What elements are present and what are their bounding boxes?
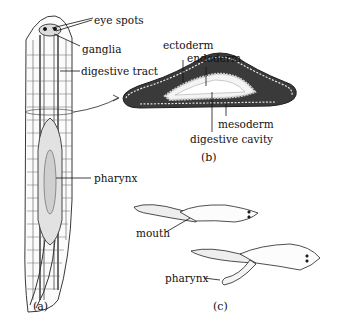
caption-c: (c) xyxy=(213,301,228,312)
label-pharynx-a: pharynx xyxy=(94,173,137,184)
label-eye-spots: eye spots xyxy=(94,15,144,26)
feeding-planarians-drawing xyxy=(134,205,320,285)
label-digestive-tract: digestive tract xyxy=(81,66,158,77)
label-endoderm: endoderm xyxy=(187,53,241,64)
label-digestive-cavity: digestive cavity xyxy=(190,134,273,145)
label-mouth: mouth xyxy=(136,228,170,239)
label-ganglia: ganglia xyxy=(82,44,121,55)
caption-b: (b) xyxy=(201,152,217,163)
label-pharynx-c: pharynx xyxy=(165,273,208,284)
label-mesoderm: mesoderm xyxy=(218,119,274,130)
caption-a: (a) xyxy=(33,301,48,312)
planarian-body-drawing xyxy=(25,16,119,312)
label-ectoderm: ectoderm xyxy=(163,40,214,51)
